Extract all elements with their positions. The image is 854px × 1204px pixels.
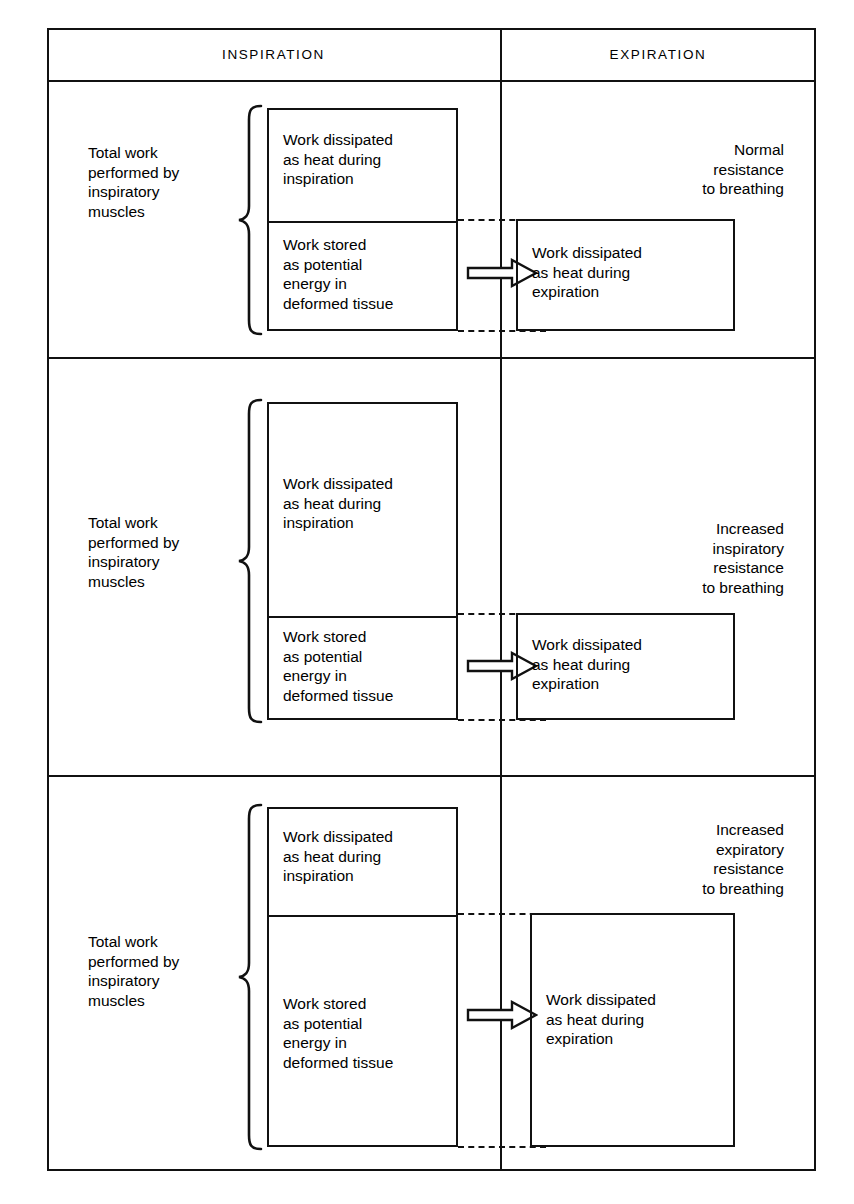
row-2-inspiration-stack: Work dissipated as heat during inspirati…: [267, 402, 458, 720]
diagram-canvas: INSPIRATION EXPIRATION Total work perfor…: [0, 0, 854, 1204]
row-3-brace: [237, 803, 263, 1151]
row-1-box-heat-inspiration: Work dissipated as heat during inspirati…: [269, 110, 456, 221]
row-1-expiration-box-text: Work dissipated as heat during expiratio…: [532, 243, 642, 302]
row-2-box-stored-energy: Work stored as potential energy in defor…: [269, 616, 456, 722]
column-header-inspiration: INSPIRATION: [47, 28, 500, 80]
row-2-box-heat-inspiration-text: Work dissipated as heat during inspirati…: [283, 474, 393, 533]
row-2-box-heat-inspiration: Work dissipated as heat during inspirati…: [269, 404, 456, 616]
row-1-rule: [47, 357, 816, 359]
row-2-brace-label: Total work performed by inspiratory musc…: [88, 513, 238, 591]
row-1-inspiration-stack: Work dissipated as heat during inspirati…: [267, 108, 458, 331]
row-2-expiration-box: Work dissipated as heat during expiratio…: [516, 613, 735, 720]
column-header-inspiration-label: INSPIRATION: [222, 47, 325, 62]
row-1-brace-label: Total work performed by inspiratory musc…: [88, 143, 238, 221]
row-3-inspiration-stack: Work dissipated as heat during inspirati…: [267, 807, 458, 1147]
row-3-expiration-box-text: Work dissipated as heat during expiratio…: [546, 990, 656, 1049]
row-2-expiration-box-text: Work dissipated as heat during expiratio…: [532, 635, 642, 694]
row-1-condition-label: Normal resistance to breathing: [560, 140, 784, 199]
row-1-box-stored-energy: Work stored as potential energy in defor…: [269, 221, 456, 333]
row-2-brace: [237, 398, 263, 724]
row-3-condition-label: Increased expiratory resistance to breat…: [560, 820, 784, 898]
row-1-expiration-box: Work dissipated as heat during expiratio…: [516, 219, 735, 331]
row-1-box-heat-inspiration-text: Work dissipated as heat during inspirati…: [283, 130, 393, 189]
row-3-box-stored-energy: Work stored as potential energy in defor…: [269, 915, 456, 1149]
row-3-transfer-arrow: [466, 1000, 538, 1030]
column-header-expiration: EXPIRATION: [500, 28, 816, 80]
row-2-condition-label: Increased inspiratory resistance to brea…: [560, 519, 784, 597]
row-3-expiration-box: Work dissipated as heat during expiratio…: [530, 913, 735, 1147]
header-rule: [47, 80, 816, 82]
row-3-box-stored-energy-text: Work stored as potential energy in defor…: [283, 994, 393, 1072]
row-1-box-stored-energy-text: Work stored as potential energy in defor…: [283, 235, 393, 313]
row-3-box-heat-inspiration-text: Work dissipated as heat during inspirati…: [283, 827, 393, 886]
row-3-brace-label: Total work performed by inspiratory musc…: [88, 932, 238, 1010]
row-2-box-stored-energy-text: Work stored as potential energy in defor…: [283, 627, 393, 705]
row-3-box-heat-inspiration: Work dissipated as heat during inspirati…: [269, 809, 456, 915]
row-2-rule: [47, 775, 816, 777]
row-1-brace: [237, 104, 263, 336]
column-header-expiration-label: EXPIRATION: [610, 47, 707, 62]
